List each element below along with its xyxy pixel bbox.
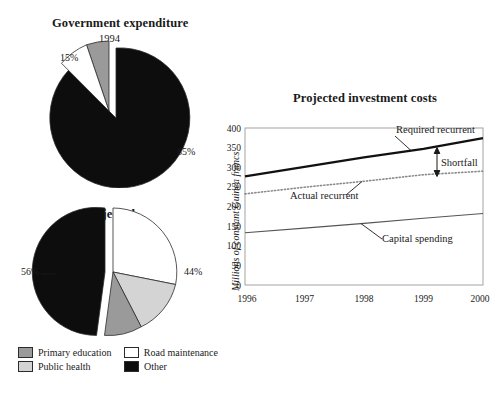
projected-investment-costs-chart: 400 350 300 250 200 150 100 50 0: [215, 80, 503, 310]
y-tick-300: 300: [227, 163, 242, 173]
shortfall-arrow: [434, 148, 440, 177]
y-tick-labels: 400 350 300 250 200 150 100 50 0: [227, 124, 242, 291]
legend-swatch-public-health: [18, 361, 33, 372]
pie2-slice-road-maintenance: [113, 208, 177, 285]
y-tick-0: 0: [236, 281, 241, 291]
legend-swatch-road-maintenance: [124, 347, 139, 358]
y-tick-350: 350: [227, 143, 242, 153]
government-expenditure-1994-pie: [0, 8, 225, 188]
plot-frame: [245, 128, 483, 285]
pie1-label-15: 15%: [60, 52, 78, 63]
x-tick-2000: 2000: [471, 294, 490, 304]
y-tick-400: 400: [227, 124, 242, 134]
legend-row-2: Public health Other: [18, 359, 218, 373]
pie2-label-44: 44%: [184, 266, 202, 277]
legend-item-primary-education[interactable]: Primary education: [18, 347, 124, 358]
pie2-label-56-leader: [41, 271, 57, 277]
legend-item-public-health[interactable]: Public health: [18, 361, 124, 372]
legend: Primary education Road maintenance Publi…: [18, 345, 218, 373]
x-tick-1998: 1998: [355, 294, 374, 304]
leader-capital-spending: [361, 224, 382, 239]
series-actual-recurrent: [245, 171, 483, 194]
y-tick-50: 50: [232, 261, 242, 271]
annotation-shortfall: Shortfall: [441, 157, 478, 168]
x-tick-labels: 1996 1997 1998 1999 2000: [238, 294, 490, 304]
pie1-svg: [0, 8, 225, 188]
x-tick-1997: 1997: [295, 294, 314, 304]
x-tick-1996: 1996: [238, 294, 257, 304]
legend-swatch-primary-education: [18, 347, 33, 358]
y-tick-200: 200: [227, 202, 242, 212]
y-tick-150: 150: [227, 222, 242, 232]
pie1-label-85: 85%: [177, 146, 195, 157]
y-tick-250: 250: [227, 182, 242, 192]
legend-label-public-health: Public health: [38, 361, 91, 372]
legend-item-other[interactable]: Other: [124, 361, 167, 372]
x-tick-1999: 1999: [414, 294, 433, 304]
pie2-label-56: 56%: [21, 266, 39, 277]
line-chart-svg: 400 350 300 250 200 150 100 50 0: [215, 80, 503, 310]
legend-swatch-other: [124, 361, 139, 372]
y-tick-100: 100: [227, 241, 242, 251]
annotation-actual-recurrent: Actual recurrent: [290, 190, 359, 201]
series-capital-spending: [245, 214, 483, 233]
pie2-exploded-group: [105, 208, 177, 336]
legend-item-road-maintenance[interactable]: Road maintenance: [124, 347, 218, 358]
legend-label-road-maintenance: Road maintenance: [144, 347, 218, 358]
legend-row-1: Primary education Road maintenance: [18, 345, 218, 359]
leader-required-recurrent: [395, 136, 411, 151]
annotation-required-recurrent: Required recurrent: [396, 124, 475, 135]
legend-label-other: Other: [144, 361, 167, 372]
legend-label-primary-education: Primary education: [38, 347, 112, 358]
annotation-capital-spending: Capital spending: [382, 233, 453, 244]
